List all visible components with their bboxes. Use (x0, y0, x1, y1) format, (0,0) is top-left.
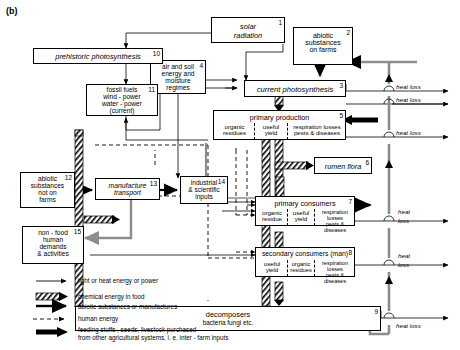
box-line: inputs (181, 193, 227, 200)
box-line: solar (212, 18, 284, 31)
box-industrial-scientific-inputs: 14 industrial & scientific inputs (180, 176, 228, 204)
cell: respiration losses pests & diseases (315, 210, 355, 233)
box-abiotic-substances-on-farms: 2 abiotic substances on farms (293, 27, 353, 65)
cell: respiration losses pests & diseases (315, 261, 355, 284)
heat-loss-label: loss (398, 217, 409, 224)
box-abiotic-not-on-farms: 12 abiotic substances not on farms (20, 172, 75, 208)
box-num-11: 11 (148, 86, 155, 93)
heat-loss-label: loss (398, 261, 409, 268)
heat-loss-label: heat loss (396, 83, 421, 90)
cell-line: residue (257, 216, 287, 222)
box-num-9: 9 (374, 308, 378, 315)
cell: useful yield (257, 261, 287, 274)
box-num-4: 4 (199, 62, 203, 69)
box-title: secondary consumers (man) (256, 248, 354, 257)
box-num-2: 2 (346, 29, 350, 36)
cell-line: respiration losses (315, 210, 355, 222)
box-subtitle: bacteria fungi etc. (76, 319, 380, 326)
cell-line: yield (288, 216, 314, 222)
heat-loss-label: heat loss (396, 96, 421, 103)
box-line: wind - power (87, 93, 157, 100)
box-line: energy and (151, 70, 205, 77)
box-num-10: 10 (153, 50, 160, 57)
box-line: prehistoric photosynthesis (34, 49, 162, 61)
box-num-5: 5 (339, 112, 343, 119)
box-title: primary consumers (256, 197, 354, 208)
heat-loss-label: heat loss (396, 322, 421, 329)
figure-root: (b) (0, 0, 460, 350)
cell-line: residues (216, 130, 253, 136)
heat-loss-label: heat (398, 252, 410, 259)
legend-item-feeding: feeding stuffs , seeds, livestock purcha… (78, 326, 196, 334)
rumen-label: rumen flora (325, 162, 361, 171)
box-line: regimes (151, 84, 205, 91)
legend-item-human: human energy (78, 315, 118, 323)
box-solar-radiation: 1 solar radiation (211, 17, 285, 43)
box-non-food-human-demands: 15 non - food human demands & activities (22, 226, 84, 264)
box-line: & scientific (181, 186, 227, 193)
box-primary-consumers: 7 primary consumers organic residue usef… (255, 196, 355, 226)
box-num-8: 8 (348, 249, 352, 256)
box-line: water - power (87, 100, 157, 107)
box-line: radiation (212, 31, 284, 40)
cell: respiration losses pests & diseases (288, 124, 346, 137)
box-num-6: 6 (365, 159, 369, 166)
box-line: on farms (294, 46, 352, 53)
box-line: substances (294, 39, 352, 46)
box-line: substances (21, 182, 74, 189)
box-line: fossil fuels (87, 85, 157, 93)
box-line: moisture (151, 77, 205, 84)
box-num-1: 1 (278, 19, 282, 26)
cell-line: residues (288, 267, 314, 273)
cell-line: yield (255, 130, 287, 136)
box-air-and-soil: 4 air and soil energy and moisture regim… (150, 60, 206, 94)
box-line: abiotic (294, 28, 352, 39)
box-line: (current) (87, 107, 157, 114)
box-rumen-flora: 6 rumen flora (314, 157, 372, 174)
box-num-15: 15 (74, 228, 81, 235)
cell-line: respiration losses (315, 261, 355, 273)
box-fossil-fuels: 11 fossil fuels wind - power water - pow… (86, 84, 158, 116)
cell-line: yield (257, 267, 287, 273)
legend-item-chemical: chemical energy in food (78, 293, 145, 301)
box-primary-production: 5 primary production organic residues us… (213, 110, 346, 140)
box-line: not on (21, 189, 74, 196)
legend-item-feeding-line2: from other agricultural systems, i. e. i… (78, 334, 228, 342)
box-secondary-consumers: 8 secondary consumers (man) useful yield… (255, 247, 355, 277)
cell: organic residues (216, 124, 253, 137)
box-title: primary production (214, 111, 345, 122)
box-current-photosynthesis: 3 current photosynthesis (244, 80, 346, 97)
cell: useful yield (288, 210, 314, 223)
box-manufacture-transport: 13 manufacture transport (95, 178, 160, 200)
box-line: farms (21, 196, 74, 203)
box-num-13: 13 (150, 180, 157, 187)
cell: organic residues (288, 261, 314, 273)
box-num-14: 14 (218, 178, 225, 185)
cell: organic residue (257, 210, 287, 223)
box-line: & activities (23, 250, 83, 257)
box-line: rumen flora (315, 158, 371, 171)
box-prehistoric-photosynthesis: 10 prehistoric photosynthesis (33, 48, 163, 64)
legend-item-light-heat: light or heat energy or power (78, 277, 158, 285)
cell-line: pests & diseases (315, 222, 355, 234)
box-line: current photosynthesis (245, 81, 345, 94)
heat-loss-label: heat loss (396, 129, 421, 136)
cell-line: pests & diseases (288, 130, 346, 136)
box-line: transport (96, 189, 159, 196)
box-num-12: 12 (65, 174, 72, 181)
box-num-7: 7 (348, 198, 352, 205)
box-num-3: 3 (339, 82, 343, 89)
box-line: demands (23, 243, 83, 250)
cell: useful yield (255, 124, 287, 137)
legend-item-abiotic: abiotic substances or manufactures (78, 303, 177, 311)
box-line: human (23, 236, 83, 243)
heat-loss-label: heat (398, 208, 410, 215)
cell-line: pests & diseases (315, 273, 355, 285)
